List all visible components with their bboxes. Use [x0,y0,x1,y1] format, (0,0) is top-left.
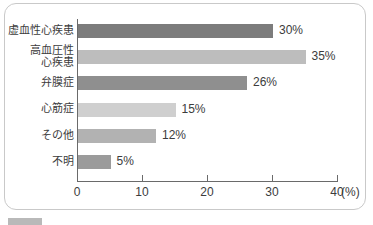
x-tick-label: 20 [200,185,213,199]
bar-3 [78,76,247,90]
bar-6 [78,155,111,169]
bar-value-label: 26% [253,75,277,89]
caption-strip [0,217,373,225]
category-label: 弁膜症 [2,76,74,89]
x-tick-mark [207,175,208,181]
x-axis-line [77,181,338,182]
category-label: その他 [2,129,74,142]
caption-swatch [8,218,42,225]
x-axis-unit-label: (%) [341,185,360,199]
x-tick-label: 10 [135,185,148,199]
bar-value-label: 5% [117,154,134,168]
bar-value-label: 12% [162,128,186,142]
category-label: 虚血性心疾患 [2,24,74,37]
category-label: 高血圧性 心疾患 [2,44,74,69]
bar-5 [78,129,156,143]
category-label: 心筋症 [2,102,74,115]
bar-4 [78,103,176,117]
bar-value-label: 15% [182,102,206,116]
category-label: 不明 [2,155,74,168]
x-tick-label: 30 [265,185,278,199]
bar-value-label: 30% [279,23,303,37]
x-tick-mark [337,175,338,181]
bar-1 [78,24,273,38]
x-tick-mark [142,175,143,181]
x-tick-mark [272,175,273,181]
x-tick-mark [77,175,78,181]
x-tick-label: 0 [74,185,81,199]
horizontal-bar-chart: 虚血性心疾患30%高血圧性 心疾患35%弁膜症26%心筋症15%その他12%不明… [0,0,373,225]
bar-2 [78,50,306,64]
bar-value-label: 35% [312,49,336,63]
